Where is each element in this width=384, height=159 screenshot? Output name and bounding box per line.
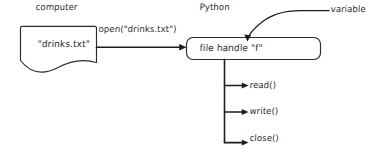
open-call-arrowhead <box>179 44 186 51</box>
write-arrowhead <box>242 109 249 115</box>
open-call-label: open("drinks.txt") <box>98 24 176 34</box>
computer-section-label: computer <box>35 2 77 12</box>
method-label-read: read() <box>249 80 276 90</box>
python-section-label: Python <box>199 2 230 12</box>
diagram-canvas: computer Python variable open("drinks.tx… <box>0 0 384 159</box>
file-handle-label: file handle "f" <box>199 43 263 53</box>
read-arrowhead <box>242 83 249 89</box>
method-label-write: write() <box>249 106 278 116</box>
close-arrowhead <box>242 140 249 146</box>
diagram-strokes <box>0 0 384 159</box>
variable-annotation-label: variable <box>330 4 366 14</box>
method-label-close: close() <box>249 133 279 143</box>
file-document-label: "drinks.txt" <box>37 39 90 49</box>
variable-pointer-curve <box>248 11 329 38</box>
